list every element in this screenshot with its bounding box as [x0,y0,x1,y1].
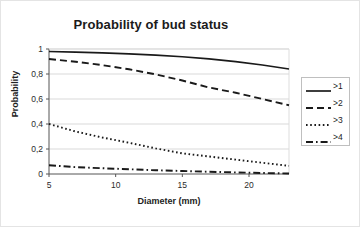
axis-lines [49,49,289,174]
legend-item[interactable]: >1 [302,78,349,95]
legend-swatch-gt4 [305,133,332,143]
series-line-gt3 [49,124,289,166]
x-tick-labels: 5101520 [47,180,254,190]
legend-item[interactable]: >3 [302,112,349,129]
chart-figure: Probability of bud status Probability 00… [0,0,360,227]
data-series-group [49,52,289,174]
series-line-gt4 [49,165,289,173]
legend-swatch-gt2 [305,99,332,109]
series-line-gt1 [49,52,289,70]
x-tick-label: 5 [47,180,52,190]
y-tick-label: 0,4 [31,119,43,129]
legend-swatch-gt3 [305,116,332,126]
legend-label: >4 [333,133,343,142]
x-tick-label: 20 [244,180,254,190]
x-axis-label: Diameter (mm) [48,196,290,206]
y-tick-label: 0,6 [31,94,43,104]
chart-legend: >1>2>3>4 [301,77,350,146]
legend-item[interactable]: >2 [302,95,349,112]
y-tick-label: 0,2 [31,144,43,154]
series-line-gt2 [49,59,289,105]
y-tick-labels: 00,20,40,60,81 [31,44,43,179]
x-tick-label: 15 [178,180,188,190]
legend-label: >3 [333,116,343,125]
y-tick-label: 0 [38,169,43,179]
legend-item[interactable]: >4 [302,129,349,146]
legend-swatch-gt1 [305,82,332,92]
y-tick-label: 0,8 [31,69,43,79]
x-tick-label: 10 [111,180,121,190]
legend-label: >1 [333,82,343,91]
legend-label: >2 [333,99,343,108]
y-tick-label: 1 [38,44,43,54]
